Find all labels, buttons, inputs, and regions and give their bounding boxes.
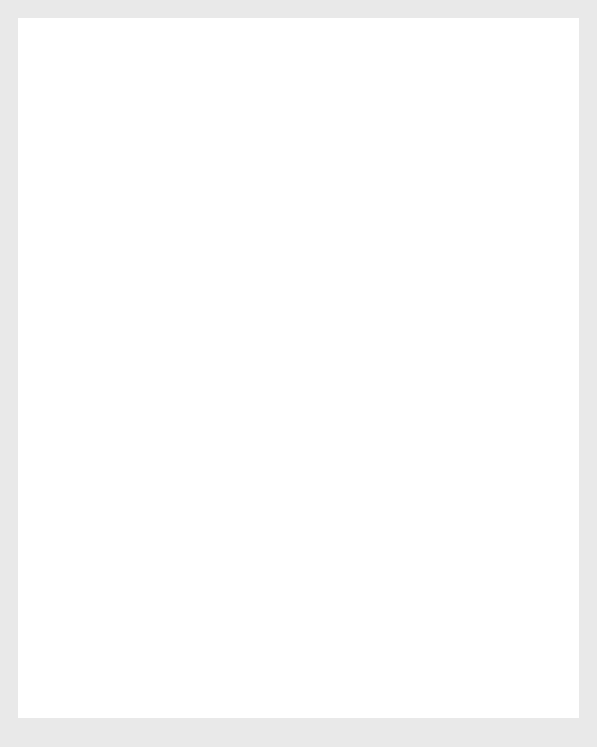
figure-container: 100 90 80 70 60 50 40 30 20 10 0 220 240… [0,0,597,747]
figure-card [18,18,579,718]
